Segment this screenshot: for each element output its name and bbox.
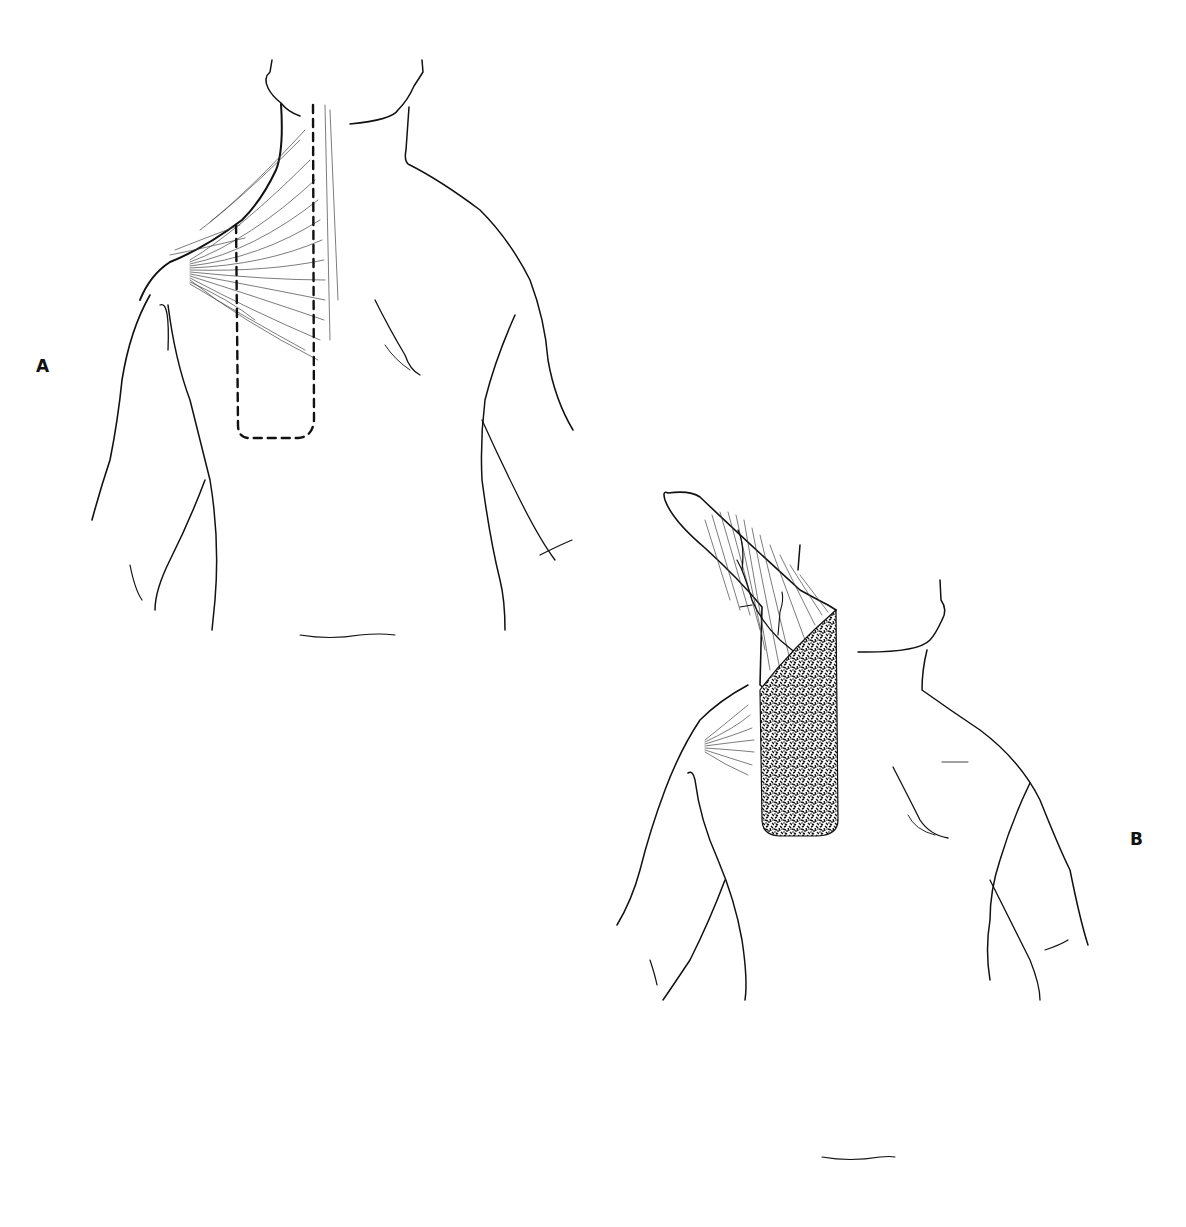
figure-a-torso xyxy=(92,60,573,638)
trapezius-fibers-b xyxy=(705,705,754,775)
donor-site-stippled xyxy=(760,610,838,836)
flap-outline-dashed xyxy=(236,105,314,438)
figure-b-torso xyxy=(617,545,1088,1160)
illustration-canvas xyxy=(0,0,1186,1227)
